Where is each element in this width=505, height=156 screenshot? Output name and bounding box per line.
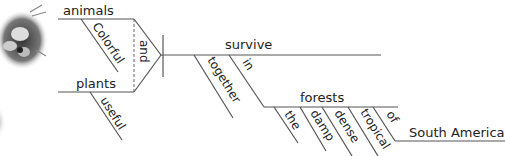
word-and: and (137, 40, 151, 63)
diagram-words: animals Colorful and plants useful survi… (0, 0, 505, 156)
word-plants: plants (76, 76, 116, 91)
word-animals: animals (63, 3, 114, 18)
word-useful: useful (97, 94, 128, 132)
sentence-diagram: animals Colorful and plants useful survi… (0, 0, 505, 156)
word-together: together (204, 54, 243, 105)
word-forests: forests (300, 90, 344, 105)
word-south-america: South America (409, 125, 505, 140)
word-of: of (383, 108, 401, 126)
word-colorful: Colorful (90, 20, 128, 66)
word-the: the (281, 108, 303, 132)
word-in: in (239, 56, 257, 73)
word-survive: survive (225, 37, 272, 52)
